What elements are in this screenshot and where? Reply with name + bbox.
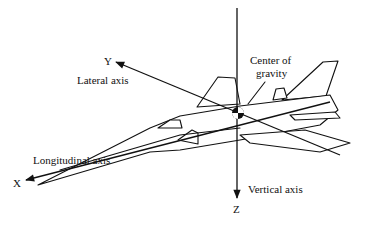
x-axis-letter: X (13, 177, 21, 189)
wing (240, 130, 350, 152)
right-fin (282, 61, 338, 100)
cg-leader-line (248, 82, 265, 104)
vertical-axis-label: Vertical axis (248, 183, 303, 195)
longitudinal-axis-label: Longitudinal axis (33, 154, 110, 166)
y-axis-letter: Y (104, 55, 112, 67)
aircraft-axes-diagram: Y Lateral axis X Longitudinal axis Verti… (0, 0, 369, 229)
center-of-gravity-label-line1: Center of (250, 54, 292, 66)
rear-canopy (273, 88, 287, 100)
lateral-axis-label: Lateral axis (77, 74, 129, 86)
left-fin (197, 77, 240, 107)
z-axis-letter: Z (233, 203, 240, 215)
center-of-gravity-label-line2: gravity (256, 67, 288, 79)
